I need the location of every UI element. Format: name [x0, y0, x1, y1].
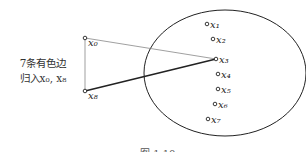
vertex-x1	[205, 22, 209, 26]
vertex-x4	[216, 72, 220, 76]
vertex-x7	[206, 117, 210, 121]
edge-x8-x3	[85, 59, 216, 91]
vertex-x5	[216, 87, 220, 91]
vertex-label-x0: x₀	[88, 37, 98, 48]
vertex-x8	[83, 89, 87, 93]
vertex-label-x2: x₂	[216, 34, 226, 45]
vertex-label-x5: x₅	[221, 84, 231, 95]
vertex-label-x8: x₈	[88, 90, 98, 101]
side-annotation-line1: 7条有色边	[4, 56, 82, 71]
vertex-x6	[213, 102, 217, 106]
edge-x0-x3	[85, 38, 216, 59]
vertex-x0	[83, 36, 87, 40]
vertex-label-x7: x₇	[211, 114, 221, 125]
side-annotation-line2: 归入x₀, x₈	[4, 71, 82, 86]
vertex-label-x1: x₁	[210, 19, 220, 30]
vertex-label-x3: x₃	[219, 54, 229, 65]
side-annotation: 7条有色边 归入x₀, x₈	[4, 56, 82, 86]
vertex-x3	[214, 57, 218, 61]
figure-caption: 图 1.10	[140, 145, 175, 152]
vertex-label-x4: x₄	[221, 69, 231, 80]
vertex-x2	[211, 37, 215, 41]
vertex-label-x6: x₆	[218, 99, 228, 110]
